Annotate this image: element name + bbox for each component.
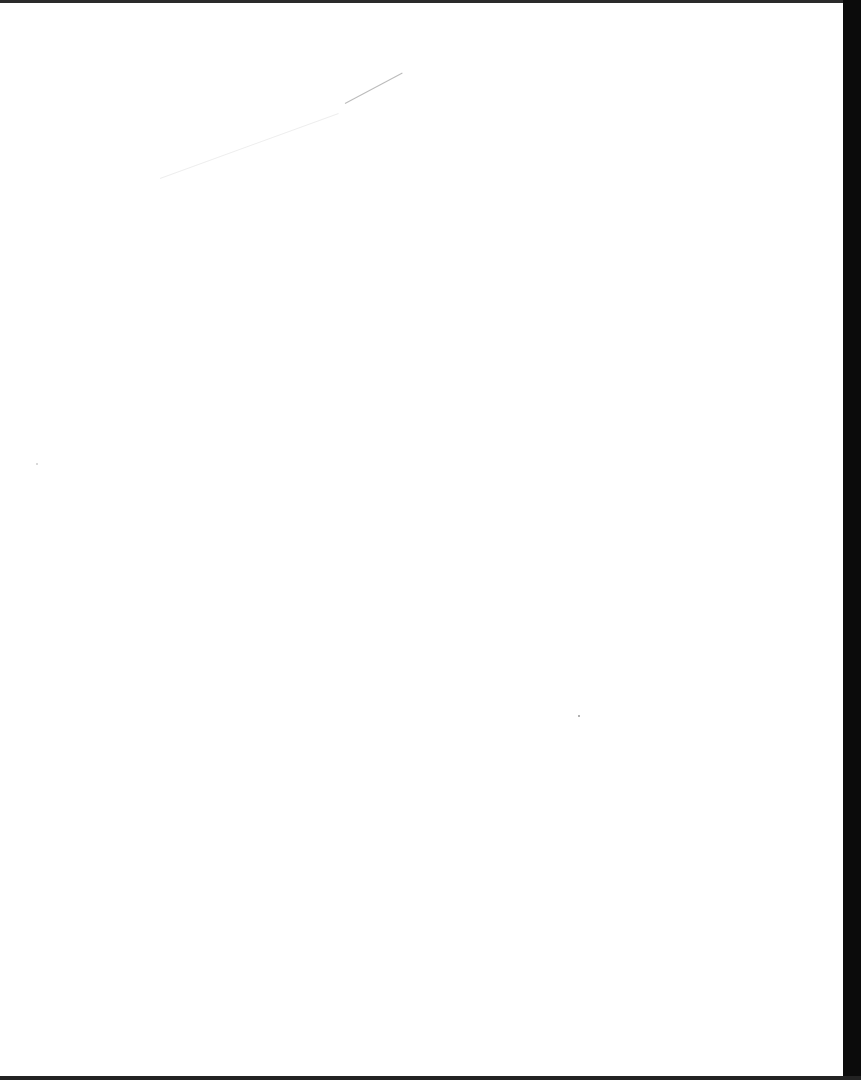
speck-mark <box>578 715 580 717</box>
faint-smudge-mark <box>160 113 339 179</box>
scan-border-bottom <box>0 1076 861 1080</box>
pencil-smudge-mark <box>345 73 403 104</box>
scan-border-right <box>843 0 861 1080</box>
speck-mark <box>36 463 38 465</box>
scan-border-top <box>0 0 861 3</box>
blank-scanned-page <box>0 3 843 1077</box>
